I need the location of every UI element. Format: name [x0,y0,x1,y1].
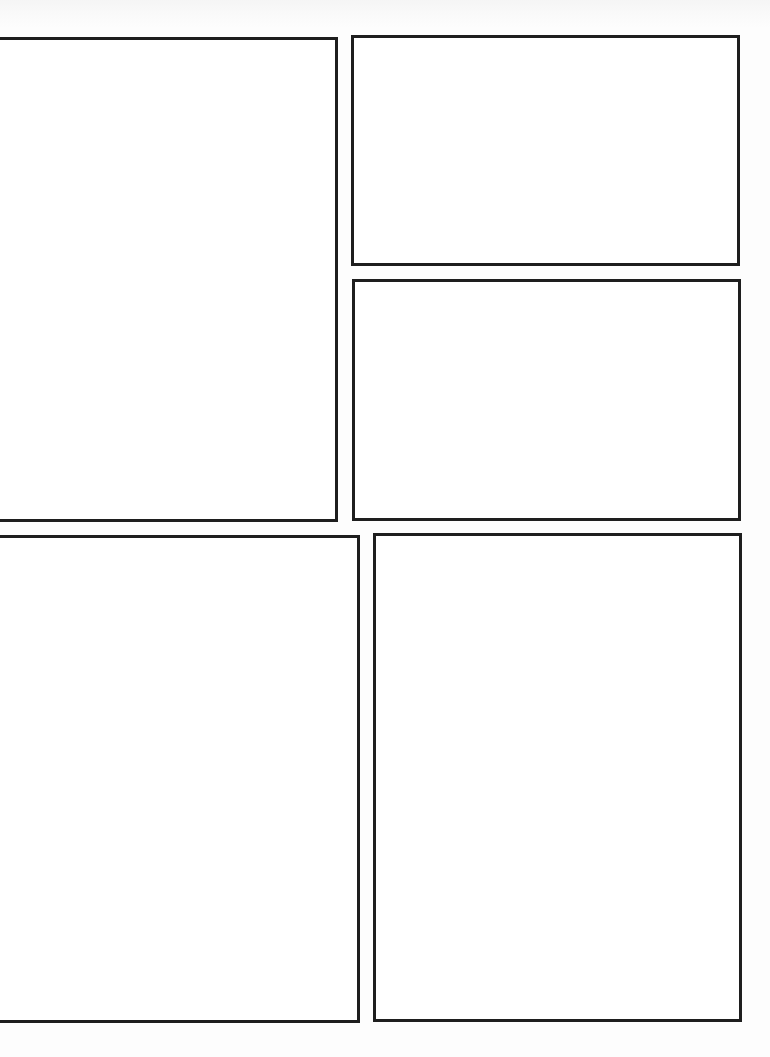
scan-bleed-through [0,0,770,28]
panel-2 [351,35,740,266]
panel-5 [373,533,742,1022]
panel-4 [0,535,360,1023]
panel-3 [352,279,741,521]
panel-1 [0,37,338,522]
